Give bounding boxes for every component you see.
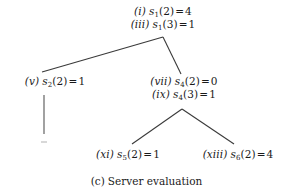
tree-node-s2: (v)s2(2)=1 (25, 76, 85, 89)
state-value: 0 (211, 75, 218, 87)
step-label: (ix) (152, 88, 170, 100)
state-value: 4 (267, 148, 274, 160)
step-label: (v) (25, 75, 39, 87)
node-root-line-2: (iii)s1(3)=1 (131, 19, 196, 32)
equals-sign: = (179, 18, 188, 30)
tree-node-s4: (vii)s4(2)=0 (ix)s4(3)=1 (150, 76, 217, 102)
tree-node-root: (i)s1(2)=4 (iii)s1(3)=1 (131, 6, 196, 32)
edge-s4-to-s5 (132, 109, 182, 144)
equals-sign: = (199, 88, 208, 100)
step-label: (xi) (96, 148, 114, 160)
state-argument: (2) (159, 5, 174, 17)
state-argument: (2) (52, 75, 67, 87)
caption-text: Server evaluation (108, 175, 202, 187)
edge-root-to-s2 (42, 37, 163, 72)
equals-sign: = (69, 75, 78, 87)
state-argument: (2) (127, 148, 142, 160)
state-argument: (3) (162, 18, 177, 30)
step-label: (iii) (131, 18, 150, 30)
equals-sign: = (257, 148, 266, 160)
node-s5-line-1: (xi)s5(2)=1 (96, 149, 160, 162)
figure-caption: (c)Server evaluation (0, 175, 293, 187)
state-argument: (2) (240, 148, 255, 160)
state-argument: (3) (183, 88, 198, 100)
figure-server-evaluation: (i)s1(2)=4 (iii)s1(3)=1 (v)s2(2)=1 (vii)… (0, 0, 293, 195)
state-argument: (2) (185, 75, 200, 87)
equals-sign: = (143, 148, 152, 160)
node-s4-line-2: (ix)s4(3)=1 (150, 89, 217, 102)
state-value: 1 (153, 148, 160, 160)
equals-sign: = (201, 75, 210, 87)
tree-node-s6: (xiii)s6(2)=4 (203, 149, 274, 162)
state-value: 4 (185, 5, 192, 17)
state-value: 1 (209, 88, 216, 100)
step-label: (i) (134, 5, 146, 17)
state-value: 1 (78, 75, 85, 87)
edge-root-to-s4 (163, 37, 181, 74)
equals-sign: = (175, 5, 184, 17)
edge-s4-to-s6 (182, 109, 234, 144)
caption-label: (c) (91, 175, 105, 187)
step-label: (vii) (150, 75, 171, 87)
step-label: (xiii) (203, 148, 228, 160)
node-s6-line-1: (xiii)s6(2)=4 (203, 149, 274, 162)
state-value: 1 (189, 18, 196, 30)
tree-node-s5: (xi)s5(2)=1 (96, 149, 160, 162)
node-s2-line-1: (v)s2(2)=1 (25, 76, 85, 89)
